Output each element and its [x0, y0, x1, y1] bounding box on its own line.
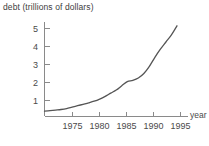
- x-tick-label-1990: 1990: [143, 121, 163, 131]
- y-tick-label-2: 2: [33, 78, 38, 88]
- debt-line-chart: 5 4 3 2 1 1975 1980 1985 1990 1995 year: [0, 0, 209, 146]
- y-tick-label-1: 1: [33, 96, 38, 106]
- debt-curve: [45, 26, 177, 111]
- x-tick-label-1995: 1995: [170, 121, 190, 131]
- x-axis-label: year: [190, 110, 207, 120]
- y-tick-label-4: 4: [33, 42, 38, 52]
- x-tick-label-1980: 1980: [89, 121, 109, 131]
- y-tick-label-3: 3: [33, 60, 38, 70]
- x-tick-label-1975: 1975: [62, 121, 82, 131]
- chart-figure: debt (trillions of dollars) 5 4 3 2 1 19…: [0, 0, 209, 146]
- x-tick-label-1985: 1985: [116, 121, 136, 131]
- y-tick-label-5: 5: [33, 24, 38, 34]
